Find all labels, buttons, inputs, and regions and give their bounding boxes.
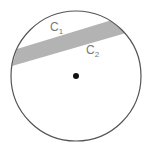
shaded-band xyxy=(12,20,126,66)
circle-diagram: C1 C2 xyxy=(0,0,154,153)
center-point xyxy=(73,73,79,79)
label-c2: C2 xyxy=(86,43,100,59)
label-c1: C1 xyxy=(50,20,64,36)
